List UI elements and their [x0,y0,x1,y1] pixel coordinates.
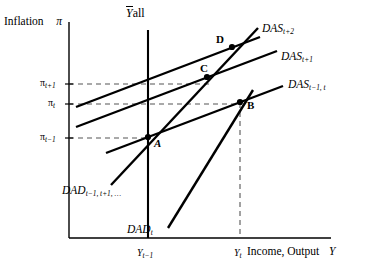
tick-sub: t−1 [45,135,56,144]
point-label-a: A [154,138,161,149]
potential-output-label-suffix: all [133,6,145,20]
tick-label-pi-t-minus-1: πt−1 [40,132,56,142]
x-axis-title: Income, Output Y [247,246,335,258]
figure-canvas: Inflation π Income, Output Y Yall πt+1 π… [0,0,384,274]
curve-sub: t−1, t [309,83,326,92]
curve-label-das-t-minus-1-t: DASt−1, t [288,79,326,91]
curve-base: DAS [262,22,283,34]
tick-label-pi-t-plus-1: πt+1 [40,78,56,88]
dot-point-d [229,44,235,50]
curve-sub: t−1, t+1, … [86,189,121,198]
potential-output-label-main: Y [126,6,133,20]
tick-sub: t−1 [143,251,154,260]
tick-base: Y [234,247,240,258]
potential-output-label: Yall [126,6,145,20]
curve-label-dad-t-minus-1-t-plus-1: DADt−1, t+1, … [62,185,121,197]
point-label-b: B [247,100,254,111]
tick-label-Y-t-minus-1: Yt−1 [137,248,153,258]
curve-sub: t [151,228,153,237]
dot-point-b [237,99,243,105]
y-axis-title-text: Inflation [4,15,44,27]
curve-label-dad-t: DADt [127,224,153,236]
tick-label-pi-t: πt [48,98,55,108]
curve-label-das-t-plus-2: DASt+2 [262,23,294,35]
curve-base: DAD [127,223,151,235]
curve-sub: t+2 [283,27,294,36]
x-axis-title-text: Income, Output [247,245,319,257]
tick-sub: t+1 [45,81,56,90]
dot-point-c [204,74,210,80]
curve-base: DAS [281,50,302,62]
diagram-svg [0,0,384,274]
tick-sub: t [53,101,55,110]
curve-base: DAD [62,184,86,196]
curve-label-das-t-plus-1: DASt+1 [281,51,313,63]
y-axis-symbol: π [56,15,62,27]
tick-label-Y-t: Yt [234,248,242,258]
curve-sub: t+1 [302,55,313,64]
tick-base: Y [137,247,143,258]
x-axis-symbol: Y [329,245,335,257]
tick-sub: t [240,251,242,260]
point-label-c: C [200,63,208,74]
dot-point-a [145,134,151,140]
point-label-d: D [216,34,224,45]
curve-base: DAS [288,78,309,90]
y-axis-title: Inflation π [4,16,62,28]
